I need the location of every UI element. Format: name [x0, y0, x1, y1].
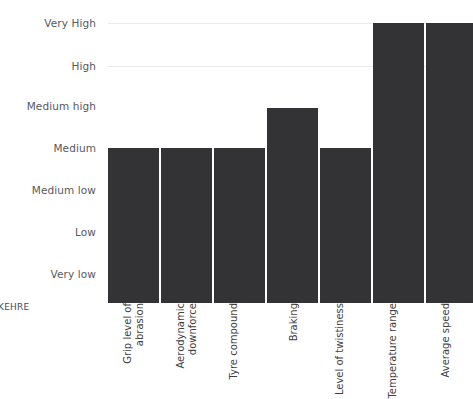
x-axis-label-level-of-twistiness: Level of twistiness — [334, 303, 346, 399]
y-axis-tick-label: Medium — [53, 142, 96, 154]
x-axis-label-temperature-range: Temperature range — [387, 303, 399, 399]
bar-average-speed[interactable] — [426, 23, 473, 303]
left-caption-word: TZKEHRE — [0, 302, 40, 312]
x-axis: Grip level of abrasion Aerodynamic downf… — [108, 303, 473, 399]
left-caption-number-text: 5 — [0, 283, 40, 294]
bar-tyre-compound[interactable] — [214, 148, 265, 303]
x-axis-label-grip-level-of-abrasion: Grip level of abrasion — [122, 303, 145, 399]
y-axis-tick-label: Medium high — [27, 100, 96, 112]
y-axis-tick-label: Very High — [44, 17, 96, 29]
y-axis-tick-label: Very low — [51, 268, 96, 280]
bar-series — [108, 0, 473, 303]
y-axis-tick-label: Low — [75, 226, 96, 238]
bar-grip-level-of-abrasion[interactable] — [108, 148, 159, 303]
x-axis-label-average-speed: Average speed — [440, 303, 452, 399]
bar-temperature-range[interactable] — [373, 23, 424, 303]
left-caption-word-text: TZKEHRE — [0, 302, 40, 312]
y-axis-tick-label: Medium low — [32, 184, 96, 196]
x-axis-label-tyre-compound: Tyre compound — [228, 303, 240, 399]
y-axis: Very High High Medium high Medium Medium… — [0, 0, 104, 399]
bar-aerodynamic-downforce[interactable] — [161, 148, 212, 303]
bar-braking[interactable] — [267, 108, 318, 303]
plot-area: Grip level of abrasion Aerodynamic downf… — [108, 0, 473, 399]
left-caption-number: 5 — [0, 283, 40, 294]
x-axis-label-aerodynamic-downforce: Aerodynamic downforce — [175, 303, 198, 399]
bar-level-of-twistiness[interactable] — [320, 148, 371, 303]
chart-screenshot: Very High High Medium high Medium Medium… — [0, 0, 473, 399]
y-axis-tick-label: High — [71, 60, 96, 72]
x-axis-label-braking: Braking — [288, 303, 300, 399]
